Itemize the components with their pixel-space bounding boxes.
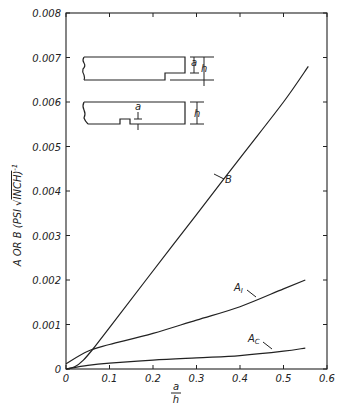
inset-label-h: h (201, 63, 207, 74)
svg-text:h: h (173, 394, 179, 405)
x-tick-label: 0.2 (145, 373, 161, 384)
series-label-B: B (225, 174, 232, 185)
x-tick-label: 0.1 (102, 373, 118, 384)
inset-center-notch-diagram: h a (83, 101, 204, 130)
chart: 00.10.20.30.40.50.600.0010.0020.0030.004… (0, 0, 337, 411)
x-tick-label: 0.4 (232, 373, 248, 384)
y-tick-label: 0 (55, 364, 61, 375)
y-tick-label: 0.006 (32, 97, 61, 108)
series-label-Ac: AC (247, 333, 260, 346)
tick-labels: 00.10.20.30.40.50.600.0010.0020.0030.004… (32, 8, 335, 384)
x-axis-label: a h (171, 381, 181, 405)
inset-label-a: a (191, 57, 197, 68)
inset-label-a: a (135, 101, 141, 112)
y-tick-label: 0.004 (32, 186, 61, 197)
break-line-icon (83, 57, 85, 80)
svg-text:A OR B (PSI √INCH)-1: A OR B (PSI √INCH)-1 (11, 164, 23, 268)
x-tick-label: 0.5 (276, 373, 292, 384)
inset-label-h: h (194, 108, 200, 119)
y-tick-label: 0.003 (32, 231, 61, 242)
y-tick-label: 0.001 (32, 320, 61, 331)
inset-edge-notch-diagram: a h (83, 57, 214, 86)
series-line-A (66, 280, 305, 364)
edge-notch-specimen-outline (84, 57, 185, 80)
series-line-Ac (66, 348, 305, 369)
series-lines (66, 66, 308, 369)
x-tick-label: 0.6 (319, 373, 335, 384)
y-tick-label: 0.008 (32, 8, 61, 19)
x-tick-label: 0.3 (189, 373, 205, 384)
y-tick-label: 0.007 (32, 53, 61, 64)
y-tick-label: 0.005 (32, 142, 61, 153)
y-tick-label: 0.002 (32, 275, 61, 286)
series-label-A1: AI (233, 282, 243, 295)
break-line-icon (83, 102, 88, 124)
svg-text:a: a (173, 381, 179, 392)
curve-labels: B AI AC (214, 174, 272, 349)
x-tick-label: 0 (63, 373, 69, 384)
y-axis-label: A OR B (PSI √INCH)-1 (11, 164, 23, 268)
